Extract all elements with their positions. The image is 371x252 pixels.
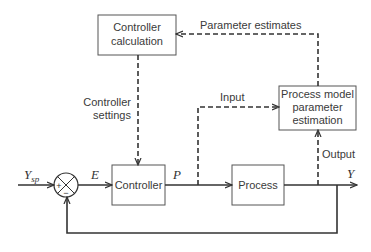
output-y-label: Y xyxy=(347,166,356,181)
error-label: E xyxy=(90,167,99,182)
setpoint-signal: Ysp xyxy=(18,167,54,185)
feedback-path xyxy=(67,185,337,233)
controller-block: Controller xyxy=(112,165,165,205)
process-label: Process xyxy=(238,179,278,191)
controller-calculation-label-2: calculation xyxy=(111,35,163,47)
controller-output-label: P xyxy=(172,167,181,182)
parameter-estimates-label: Parameter estimates xyxy=(200,19,302,31)
process-model-block: Process model parameter estimation xyxy=(279,86,356,130)
input-label: Input xyxy=(220,91,244,103)
controller-calculation-label-1: Controller xyxy=(113,21,161,33)
plus-sign: + xyxy=(56,181,61,191)
parameter-estimates-signal: Parameter estimates xyxy=(176,19,318,86)
minus-sign: − xyxy=(63,188,68,198)
process-model-label-1: Process model xyxy=(281,88,354,100)
error-signal: E xyxy=(78,167,112,185)
controller-calculation-block: Controller calculation xyxy=(98,15,176,55)
controller-settings-label-1: Controller xyxy=(83,96,131,108)
process-output-signal: Y xyxy=(284,166,357,185)
setpoint-label: Ysp xyxy=(24,167,40,184)
output-label: Output xyxy=(322,148,355,160)
process-model-label-2: parameter xyxy=(292,101,342,113)
process-block: Process xyxy=(232,165,284,205)
block-diagram: Controller calculation Process model par… xyxy=(0,0,371,252)
process-model-label-3: estimation xyxy=(292,114,342,126)
controller-settings-signal: Controller settings xyxy=(83,55,138,165)
controller-settings-label-2: settings xyxy=(93,109,131,121)
controller-label: Controller xyxy=(115,179,163,191)
summing-junction: + − xyxy=(54,173,78,198)
